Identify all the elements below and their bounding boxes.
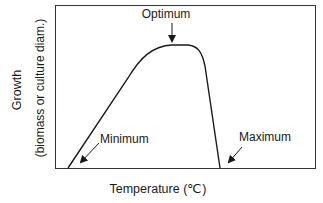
minimum-label: Minimum xyxy=(100,132,149,146)
y-axis-label: Growth xyxy=(10,70,24,110)
plot-frame xyxy=(56,6,316,169)
y-axis-sublabel: (biomass or culture diam.) xyxy=(33,19,47,158)
growth-curve xyxy=(68,45,220,168)
growth-temperature-chart: Optimum Minimum Maximum Temperature (℃) … xyxy=(0,0,323,203)
maximum-arrow-icon xyxy=(229,147,242,162)
x-axis-label: Temperature (℃) xyxy=(110,182,207,196)
minimum-arrow-icon xyxy=(81,143,99,162)
maximum-label: Maximum xyxy=(239,130,291,144)
optimum-label: Optimum xyxy=(142,7,191,21)
